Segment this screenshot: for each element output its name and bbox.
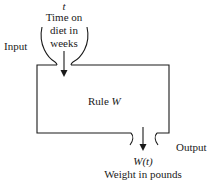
input-label: Input (4, 40, 27, 52)
output-variable: W(t) (113, 155, 173, 167)
input-description-line-3: weeks (34, 37, 94, 49)
input-description-line-1: Time on (34, 11, 94, 23)
output-description: Weight in pounds (93, 168, 193, 180)
input-arrow-head (61, 70, 68, 77)
function-machine-diagram (0, 0, 208, 188)
rule-label: Rule W (88, 95, 121, 107)
output-funnel-left (130, 133, 133, 145)
output-funnel-right (155, 133, 158, 145)
output-arrow-head (140, 144, 147, 151)
input-description-line-2: diet in (34, 24, 94, 36)
output-label: Output (176, 141, 207, 153)
